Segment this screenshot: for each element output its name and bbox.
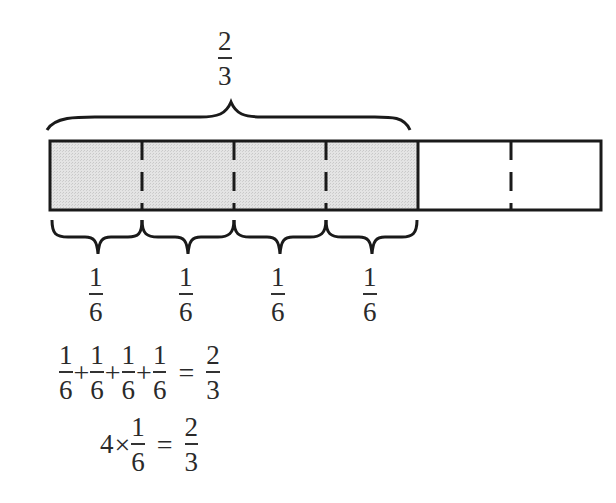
denominator: 6	[131, 447, 145, 477]
lower-braces	[52, 220, 417, 254]
term-fraction: 1 6	[59, 340, 73, 405]
term-fraction: 1 6	[131, 412, 145, 477]
term-fraction: 1 6	[122, 340, 136, 405]
numerator: 2	[218, 26, 232, 56]
top-label-fraction: 2 3	[218, 26, 232, 91]
bar-model-graphic	[0, 0, 616, 503]
numerator: 1	[363, 262, 377, 292]
fraction-bar	[218, 57, 232, 59]
numerator: 1	[271, 262, 285, 292]
times-sign: ×	[114, 429, 132, 461]
top-brace	[47, 102, 410, 130]
denominator: 6	[271, 297, 285, 327]
numerator: 1	[59, 340, 73, 370]
fraction-bar	[271, 293, 285, 295]
plus-sign: +	[73, 357, 91, 389]
fraction-bar	[122, 371, 136, 373]
plus-sign: +	[135, 357, 153, 389]
fraction-bar	[89, 293, 103, 295]
equals-sign: =	[166, 357, 206, 389]
part-label-2: 1 6	[179, 262, 193, 327]
numerator: 1	[179, 262, 193, 292]
denominator: 6	[363, 297, 377, 327]
numerator: 1	[89, 262, 103, 292]
fraction-bar	[185, 443, 199, 445]
denominator: 3	[185, 447, 199, 477]
numerator: 1	[122, 340, 136, 370]
fraction-bar	[179, 293, 193, 295]
result-fraction: 2 3	[206, 340, 220, 405]
denominator: 6	[179, 297, 193, 327]
part-label-4: 1 6	[363, 262, 377, 327]
denominator: 6	[122, 375, 136, 405]
fraction-bar	[131, 443, 145, 445]
numerator: 2	[206, 340, 220, 370]
sum-equation: 1 6 + 1 6 + 1 6 + 1 6 = 2 3	[59, 340, 220, 405]
equals-sign: =	[145, 429, 185, 461]
term-fraction: 1 6	[90, 340, 104, 405]
denominator: 6	[59, 375, 73, 405]
numerator: 1	[131, 412, 145, 442]
fraction-bar	[206, 371, 220, 373]
numerator: 1	[153, 340, 167, 370]
denominator: 6	[90, 375, 104, 405]
denominator: 6	[89, 297, 103, 327]
denominator: 3	[206, 375, 220, 405]
denominator: 3	[218, 61, 232, 91]
numerator: 2	[185, 412, 199, 442]
denominator: 6	[153, 375, 167, 405]
multiplier: 4	[100, 429, 114, 460]
plus-sign: +	[104, 357, 122, 389]
numerator: 1	[90, 340, 104, 370]
part-label-3: 1 6	[271, 262, 285, 327]
fraction-bar	[59, 371, 73, 373]
part-label-1: 1 6	[89, 262, 103, 327]
product-equation: 4 × 1 6 = 2 3	[100, 412, 198, 477]
result-fraction: 2 3	[185, 412, 199, 477]
fraction-bar	[90, 371, 104, 373]
fraction-bar	[153, 371, 167, 373]
fraction-bar	[363, 293, 377, 295]
term-fraction: 1 6	[153, 340, 167, 405]
